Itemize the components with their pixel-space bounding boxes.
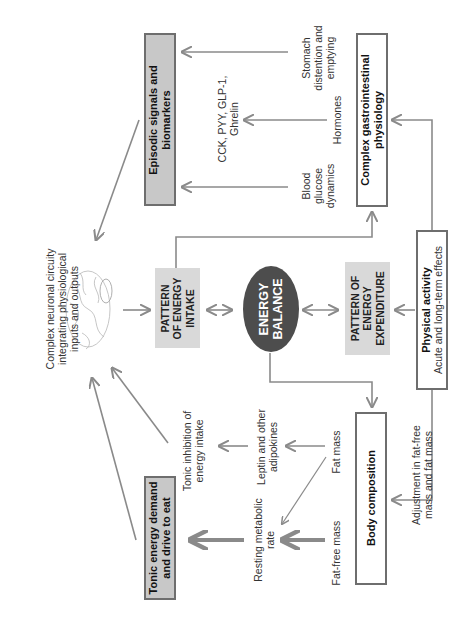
- blood-glucose-line: dynamics: [324, 164, 336, 208]
- cck-pyy-glp1-ghrelin-label: CCK, PYY, GLP-1, Ghrelin: [213, 59, 243, 179]
- tonic-demand-line: Tonic energy demand: [147, 482, 160, 595]
- tonic-demand-line: and drive to eat: [160, 482, 173, 595]
- episodic-line: Episodic signals and: [147, 65, 160, 174]
- blood-glucose-label: Blood glucose dynamics: [296, 156, 340, 216]
- hormones-line: Hormones: [331, 96, 343, 144]
- intake-line: INTAKE: [183, 278, 195, 340]
- gi-physiology-label: Complex gastrointestinal physiology: [356, 33, 388, 207]
- expenditure-line: PATTERN OF: [349, 271, 361, 346]
- brain-label-line: Complex neuronal circuity: [44, 249, 56, 370]
- brain-label: Complex neuronal circuity integrating ph…: [40, 229, 84, 389]
- physical-activity-title: Physical activity: [420, 246, 433, 374]
- fat-mass-label: Fat mass: [327, 422, 345, 482]
- rmr-line: Resting metabolic: [252, 498, 264, 581]
- brain-label-line: integrating physiological: [56, 249, 68, 370]
- episodic-line: biomarkers: [160, 65, 173, 174]
- fat-mass-line: Fat mass: [330, 430, 342, 473]
- stomach-line: distention and: [312, 25, 324, 90]
- tonic-energy-demand-label: Tonic energy demand and drive to eat: [144, 476, 176, 600]
- fat-free-mass-label: Fat-free mass: [327, 513, 345, 593]
- gi-line: physiology: [372, 54, 385, 185]
- body-composition-label: Body composition: [355, 412, 387, 585]
- cck-line: CCK, PYY, GLP-1,: [216, 76, 228, 163]
- intake-line: OF ENERGY: [171, 278, 183, 340]
- expenditure-line: EXPENDITURE: [374, 271, 386, 346]
- tonic-inhibition-line: Tonic inhibition of: [181, 411, 193, 492]
- leptin-adipokines-label: Leptin and other adipokines: [252, 402, 282, 492]
- blood-glucose-line: Blood: [300, 164, 312, 208]
- stomach-line: emptying: [324, 25, 336, 90]
- episodic-signals-label: Episodic signals and biomarkers: [144, 34, 176, 207]
- stomach-distention-label: Stomach distention and emptying: [296, 18, 340, 98]
- energy-intake-label: PATTERN OF ENERGY INTAKE: [155, 269, 200, 349]
- blood-glucose-line: glucose: [312, 164, 324, 208]
- gi-line: Complex gastrointestinal: [359, 54, 372, 185]
- adjustment-line: Adjustment in fat-free: [410, 425, 422, 525]
- hormones-label: Hormones: [327, 90, 347, 150]
- body-composition-text: Body composition: [364, 450, 377, 546]
- physical-activity-subtitle: Acute and long-term effects: [432, 246, 444, 374]
- cck-line: Ghrelin: [228, 76, 240, 163]
- balance-line: BALANCE: [271, 278, 285, 339]
- brain-label-line: inputs and outputs: [68, 249, 80, 370]
- expenditure-line: ENERGY: [361, 271, 373, 346]
- adjustment-label: Adjustment in fat-free mass and fat mass: [407, 420, 437, 530]
- stomach-line: Stomach: [300, 25, 312, 90]
- energy-balance-label: ENERGY BALANCE: [258, 266, 284, 352]
- fat-free-mass-line: Fat-free mass: [330, 521, 342, 586]
- leptin-line: Leptin and other: [255, 409, 267, 485]
- leptin-line: adipokines: [267, 409, 279, 485]
- tonic-inhibition-label: Tonic inhibition of energy intake: [178, 405, 208, 497]
- physical-activity-label: Physical activity Acute and long-term ef…: [416, 230, 448, 390]
- energy-expenditure-label: PATTERN OF ENERGY EXPENDITURE: [345, 262, 390, 355]
- balance-line: ENERGY: [257, 278, 271, 339]
- adjustment-line: mass and fat mass: [422, 425, 434, 525]
- intake-line: PATTERN: [159, 278, 171, 340]
- tonic-inhibition-line: energy intake: [193, 411, 205, 492]
- resting-metabolic-rate-label: Resting metabolic rate: [249, 494, 279, 586]
- rmr-line: rate: [264, 498, 276, 581]
